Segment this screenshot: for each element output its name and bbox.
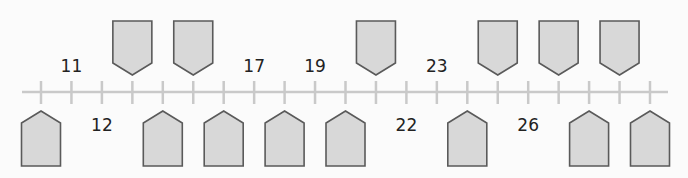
answer-box-below[interactable] xyxy=(631,111,670,166)
answer-box-below[interactable] xyxy=(204,111,243,166)
number-line-diagram: 11171923122226 xyxy=(0,0,688,178)
number-line-canvas xyxy=(0,0,688,178)
answer-box-above[interactable] xyxy=(113,21,152,75)
answer-box-below[interactable] xyxy=(22,111,61,166)
answer-box-above[interactable] xyxy=(356,21,395,75)
answer-box-above[interactable] xyxy=(600,21,639,75)
number-label-below: 26 xyxy=(517,115,539,135)
answer-box-below[interactable] xyxy=(326,111,365,166)
answer-box-below[interactable] xyxy=(448,111,487,166)
number-label-below: 12 xyxy=(91,115,113,135)
answer-box-below[interactable] xyxy=(570,111,609,166)
answer-box-below[interactable] xyxy=(265,111,304,166)
number-label-below: 22 xyxy=(396,115,418,135)
answer-box-below[interactable] xyxy=(143,111,182,166)
number-label-above: 11 xyxy=(61,56,83,76)
answer-box-above[interactable] xyxy=(478,21,517,75)
answer-box-above[interactable] xyxy=(539,21,578,75)
answer-box-above[interactable] xyxy=(174,21,213,75)
number-label-above: 19 xyxy=(304,56,326,76)
number-label-above: 17 xyxy=(243,56,265,76)
number-label-above: 23 xyxy=(426,56,448,76)
